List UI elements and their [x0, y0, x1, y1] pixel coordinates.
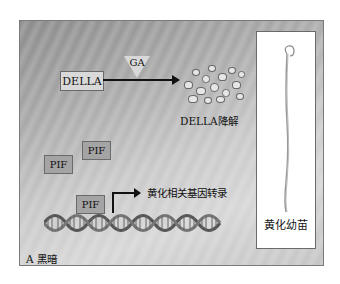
ga-label: GA — [128, 57, 146, 68]
dna-helix-icon — [44, 210, 222, 236]
diagram-panel: GA DELLA DELLA降解 PIF PIF PIF 黄化相关基因转录 — [19, 20, 324, 266]
seedling-panel: 黄化幼苗 — [256, 31, 316, 249]
della-fragments-icon — [180, 63, 252, 105]
transcription-arrow-line — [112, 192, 135, 194]
arrow-right-icon — [134, 188, 141, 198]
degradation-arrow-line — [103, 79, 173, 81]
transcription-label: 黄化相关基因转录 — [147, 185, 227, 200]
pif-box: PIF — [44, 155, 73, 174]
pif-box: PIF — [82, 141, 111, 160]
panel-label: A 黑暗 — [26, 251, 57, 266]
della-degradation-label: DELLA降解 — [180, 113, 238, 128]
arrow-right-icon — [172, 75, 180, 85]
seedling-label: 黄化幼苗 — [257, 216, 315, 232]
della-box: DELLA — [60, 71, 104, 91]
